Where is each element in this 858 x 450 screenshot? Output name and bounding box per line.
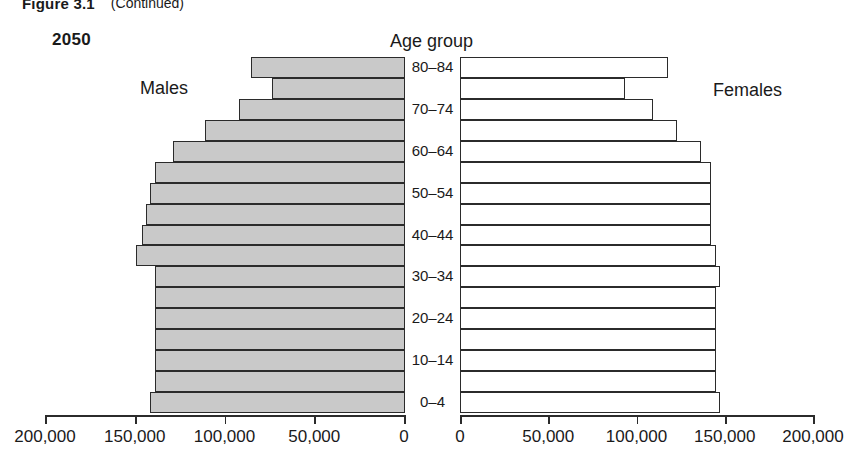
axis-tick: [225, 415, 227, 424]
age-group-label-70-74: 70–74: [405, 99, 460, 120]
female-bar-row: [460, 141, 834, 162]
figure-continued-note: (Continued): [111, 0, 184, 11]
male-bar-50-54: [150, 183, 405, 204]
female-bar-65-69: [460, 120, 677, 141]
male-bar-55-59: [155, 162, 405, 183]
male-bar-80-84: [251, 57, 405, 78]
female-bar-row: [460, 99, 834, 120]
female-bar-row: [460, 308, 834, 329]
axis-tick-label: 50,000: [288, 427, 340, 447]
female-bar-row: [460, 183, 834, 204]
axis-tick: [637, 415, 639, 424]
male-bar-row: [24, 245, 405, 266]
male-bar-row: [24, 141, 405, 162]
axis-tick-label: 200,000: [14, 427, 75, 447]
female-bar-70-74: [460, 99, 653, 120]
male-bar-40-44: [142, 225, 405, 246]
age-group-label-60-64: 60–64: [405, 141, 460, 162]
axis-tick-label: 200,000: [782, 427, 843, 447]
female-bar-60-64: [460, 141, 701, 162]
male-bar-65-69: [205, 120, 405, 141]
female-bar-row: [460, 266, 834, 287]
male-bar-35-39: [136, 245, 405, 266]
male-bar-5-9: [155, 371, 405, 392]
female-bar-45-49: [460, 204, 711, 225]
male-bar-row: [24, 266, 405, 287]
male-bar-30-34: [155, 266, 405, 287]
male-bar-row: [24, 99, 405, 120]
age-group-tick-column: 80–8470–7460–6450–5440–4430–3420–2410–14…: [405, 57, 460, 413]
male-bar-row: [24, 287, 405, 308]
male-bars-panel: [24, 57, 405, 413]
axis-tick: [725, 415, 727, 424]
female-bar-row: [460, 371, 834, 392]
female-bar-row: [460, 120, 834, 141]
female-bar-35-39: [460, 245, 716, 266]
female-bar-row: [460, 204, 834, 225]
female-bar-75-79: [460, 78, 625, 99]
male-bar-row: [24, 162, 405, 183]
female-bar-row: [460, 392, 834, 413]
axis-tick: [813, 415, 815, 424]
female-bar-row: [460, 287, 834, 308]
female-bar-80-84: [460, 57, 668, 78]
female-bar-5-9: [460, 371, 716, 392]
age-group-label-30-34: 30–34: [405, 266, 460, 287]
male-bar-row: [24, 329, 405, 350]
male-bar-row: [24, 204, 405, 225]
male-bar-25-29: [155, 287, 405, 308]
female-bar-0-4: [460, 392, 720, 413]
female-bar-row: [460, 245, 834, 266]
age-group-label-40-44: 40–44: [405, 225, 460, 246]
female-bar-row: [460, 225, 834, 246]
axis-tick-label: 100,000: [606, 427, 667, 447]
year-label: 2050: [52, 30, 91, 50]
axis-tick: [548, 415, 550, 424]
female-bar-30-34: [460, 266, 720, 287]
age-group-label-20-24: 20–24: [405, 308, 460, 329]
female-bar-row: [460, 78, 834, 99]
axis-tick-label: 50,000: [522, 427, 574, 447]
axis-tick: [460, 415, 462, 424]
female-bar-10-14: [460, 350, 716, 371]
axis-tick-label: 0: [399, 427, 408, 447]
male-bar-45-49: [146, 204, 405, 225]
age-group-label-0-4: 0–4: [405, 392, 460, 413]
male-bar-row: [24, 308, 405, 329]
female-bar-row: [460, 162, 834, 183]
axis-tick-label: 150,000: [694, 427, 755, 447]
male-bar-row: [24, 225, 405, 246]
male-bar-row: [24, 350, 405, 371]
male-bar-0-4: [150, 392, 405, 413]
axis-tick-label: 0: [455, 427, 464, 447]
male-bar-row: [24, 392, 405, 413]
axis-tick: [314, 415, 316, 424]
female-bars-panel: [460, 57, 834, 413]
female-bar-row: [460, 329, 834, 350]
axis-tick-label: 150,000: [104, 427, 165, 447]
male-bar-row: [24, 78, 405, 99]
age-group-label-10-14: 10–14: [405, 350, 460, 371]
axis-tick: [135, 415, 137, 424]
male-bar-row: [24, 57, 405, 78]
female-bar-15-19: [460, 329, 716, 350]
male-bar-20-24: [155, 308, 405, 329]
female-bar-50-54: [460, 183, 711, 204]
figure-header: Figure 3.1 (Continued): [22, 0, 184, 13]
male-value-axis: 200,000150,000100,00050,0000: [45, 415, 404, 416]
male-bar-75-79: [272, 78, 405, 99]
age-group-label-80-84: 80–84: [405, 57, 460, 78]
female-bar-40-44: [460, 225, 711, 246]
male-bar-15-19: [155, 329, 405, 350]
age-group-label-50-54: 50–54: [405, 183, 460, 204]
male-bar-10-14: [155, 350, 405, 371]
female-bar-25-29: [460, 287, 716, 308]
female-bar-20-24: [460, 308, 716, 329]
male-bar-row: [24, 183, 405, 204]
female-bar-row: [460, 350, 834, 371]
figure-number: Figure 3.1: [22, 0, 95, 12]
male-bar-60-64: [173, 141, 405, 162]
axis-tick: [45, 415, 47, 424]
male-bar-70-74: [239, 99, 405, 120]
male-bar-row: [24, 120, 405, 141]
